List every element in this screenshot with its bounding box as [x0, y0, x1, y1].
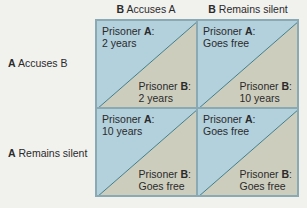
prisoner-b-payoff: Prisoner B: Goes free [138, 168, 191, 192]
payoff-cell-silent-silent: Prisoner A: Goes free Prisoner B: Goes f… [197, 108, 298, 196]
payoff-matrix: Prisoner A: 2 years Prisoner B: 2 years … [95, 19, 299, 197]
column-header-b-accuses: B Accuses A [95, 3, 197, 15]
row-player: A [8, 147, 16, 159]
row-action: Accuses B [18, 57, 68, 69]
payoff-cell-silent-accuse: Prisoner A: 10 years Prisoner B: Goes fr… [96, 108, 197, 196]
prisoner-a-payoff: Prisoner A: 2 years [102, 25, 155, 49]
column-action: Accuses A [126, 3, 175, 15]
column-action: Remains silent [219, 3, 288, 15]
prisoner-a-payoff: Prisoner A: 10 years [102, 113, 155, 137]
row-player: A [8, 57, 16, 69]
column-player: B [117, 3, 125, 15]
prisoner-a-payoff: Prisoner A: Goes free [203, 113, 256, 137]
row-action: Remains silent [19, 147, 88, 159]
payoff-cell-accuse-silent: Prisoner A: Goes free Prisoner B: 10 yea… [197, 20, 298, 108]
prisoner-b-payoff: Prisoner B: Goes free [239, 168, 292, 192]
column-header-b-silent: B Remains silent [197, 3, 299, 15]
payoff-cell-accuse-accuse: Prisoner A: 2 years Prisoner B: 2 years [96, 20, 197, 108]
prisoner-a-payoff: Prisoner A: Goes free [203, 25, 256, 49]
column-player: B [208, 3, 216, 15]
prisoner-b-payoff: Prisoner B: 10 years [239, 80, 292, 104]
prisoner-b-payoff: Prisoner B: 2 years [138, 80, 191, 104]
row-header-a-silent: A Remains silent [8, 147, 87, 159]
row-header-a-accuses: A Accuses B [8, 57, 68, 69]
